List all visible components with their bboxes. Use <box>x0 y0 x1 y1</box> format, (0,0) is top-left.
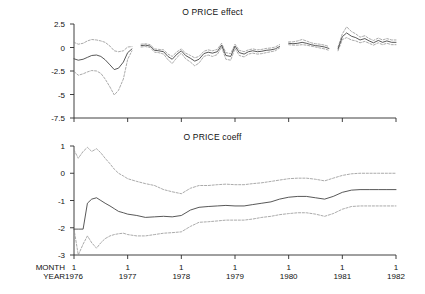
x-tick-month-label: 1 <box>233 263 238 272</box>
x-tick-month-label: 1 <box>286 263 291 272</box>
confidence-band-lower <box>74 206 396 255</box>
x-tick-month-label: 1 <box>340 263 345 272</box>
chart-panel-effect: 2.50-2.5-5-7.5 <box>0 0 425 130</box>
estimate-line <box>141 45 279 61</box>
estimate-line <box>74 190 396 230</box>
estimate-line <box>74 49 132 70</box>
x-tick-year-label: 1980 <box>280 272 298 281</box>
chart-panel-coeff: 10-1-2-311976119771197811979119801198111… <box>0 130 425 294</box>
x-tick-year-label: 1982 <box>387 272 405 281</box>
y-tick-label: 0 <box>61 169 66 178</box>
y-tick-label: -5 <box>58 91 66 100</box>
x-tick-year-label: 1977 <box>119 272 137 281</box>
x-tick-year-label: 1981 <box>333 272 351 281</box>
y-tick-label: -2 <box>58 224 66 233</box>
confidence-band-upper <box>74 40 132 52</box>
x-tick-month-label: 1 <box>125 263 130 272</box>
y-tick-label: -3 <box>58 251 66 260</box>
y-tick-label: -1 <box>58 197 66 206</box>
x-tick-month-label: 1 <box>394 263 399 272</box>
confidence-band-lower <box>74 51 132 95</box>
confidence-band-upper <box>74 147 396 193</box>
axis-caption-month: MONTH <box>36 263 66 272</box>
confidence-band-upper <box>141 43 279 58</box>
y-tick-label: 2.5 <box>54 20 66 29</box>
y-tick-label: -7.5 <box>51 114 65 123</box>
estimate-line <box>338 33 396 49</box>
y-tick-label: 1 <box>61 142 66 151</box>
x-tick-month-label: 1 <box>72 263 77 272</box>
confidence-band-upper <box>338 27 396 47</box>
plot-axes <box>74 146 396 255</box>
x-tick-month-label: 1 <box>179 263 184 272</box>
axis-caption-year: YEAR <box>43 272 65 281</box>
chart-figure: O PRICE effect 2.50-2.5-5-7.5 O PRICE co… <box>0 0 425 294</box>
x-tick-year-label: 1976 <box>65 272 83 281</box>
confidence-band-lower <box>289 45 329 51</box>
y-tick-label: -2.5 <box>51 67 65 76</box>
y-tick-label: 0 <box>61 44 66 53</box>
x-tick-year-label: 1979 <box>226 272 244 281</box>
x-tick-year-label: 1978 <box>172 272 190 281</box>
plot-axes <box>74 24 396 118</box>
